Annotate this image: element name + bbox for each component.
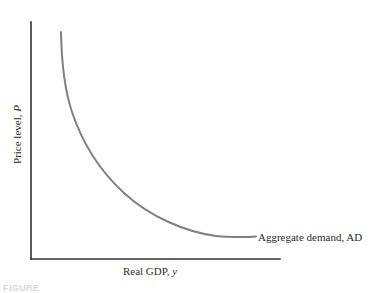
- aggregate-demand-figure: Price level, P Real GDP, y Aggregate dem…: [0, 0, 380, 293]
- y-axis-label: Price level, P: [12, 93, 23, 177]
- figure-caption-fragment: FIGURE: [3, 284, 39, 293]
- aggregate-demand-curve: [61, 32, 250, 237]
- x-axis-label-text: Real GDP,: [123, 265, 169, 277]
- aggregate-demand-curve-label: Aggregate demand, AD: [258, 232, 362, 243]
- x-axis-label: Real GDP, y: [80, 266, 220, 277]
- curve-label-leader: [248, 236, 256, 237]
- y-axis-label-variable: P: [11, 105, 23, 112]
- y-axis-label-text: Price level,: [11, 115, 23, 164]
- chart-canvas: [0, 0, 380, 293]
- x-axis-label-variable: y: [172, 265, 177, 277]
